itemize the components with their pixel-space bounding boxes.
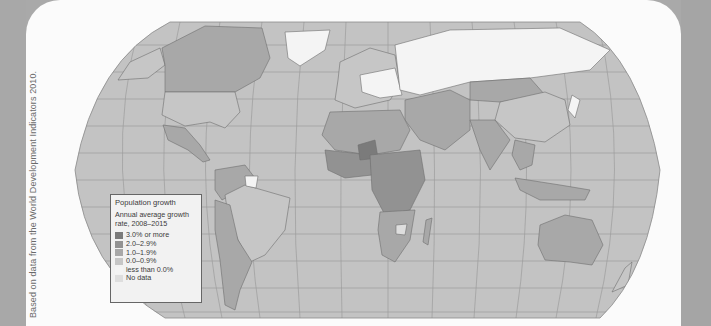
map-legend: Population growth Annual average growth … — [110, 194, 202, 303]
legend-label: No data — [126, 274, 151, 283]
legend-swatch — [115, 249, 123, 256]
legend-swatch — [115, 275, 123, 282]
legend-swatch — [115, 258, 123, 265]
region-guiana — [245, 176, 258, 188]
legend-swatch — [115, 241, 123, 248]
legend-item: No data — [115, 274, 197, 283]
world-map — [0, 0, 711, 326]
region-australia — [538, 215, 603, 265]
region-zimbabwe — [396, 224, 407, 235]
legend-swatch — [115, 232, 123, 239]
source-credit: Based on data from the World Development… — [28, 71, 38, 318]
legend-subtitle: Annual average growth rate, 2008–2015 — [115, 211, 197, 228]
legend-title: Population growth — [115, 198, 197, 207]
legend-swatch — [115, 267, 123, 274]
